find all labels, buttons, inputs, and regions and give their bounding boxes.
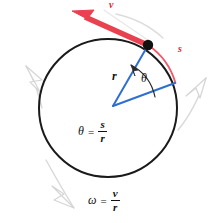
angular-velocity-equation-operator: = xyxy=(100,195,106,207)
angular-velocity-equation-denominator: r xyxy=(113,201,117,213)
velocity-vector-shaft xyxy=(85,17,152,47)
angle-equation-lhs: θ xyxy=(78,124,84,139)
velocity-label: v xyxy=(109,0,113,10)
arc-length-label: s xyxy=(178,44,182,54)
angle-equation-operator: = xyxy=(88,126,94,138)
velocity-vector-head xyxy=(72,10,97,24)
radius-label: r xyxy=(112,70,117,82)
angular-velocity-equation-lhs: ω xyxy=(88,193,96,208)
rotation-arrow-right-head xyxy=(186,78,206,98)
point-on-circle-dot xyxy=(143,40,153,50)
circular-motion-diagram: v s r θ θ = s r ω = v r xyxy=(0,0,221,223)
angle-equation-denominator: r xyxy=(100,132,104,144)
velocity-vector xyxy=(72,10,152,47)
angular-velocity-equation: ω = v r xyxy=(88,188,120,213)
angular-velocity-equation-numerator: v xyxy=(113,188,118,200)
radius-line-to-arc-end xyxy=(113,83,175,106)
main-circle xyxy=(39,39,177,177)
angle-equation-numerator: s xyxy=(100,119,104,131)
angle-equation-fraction: s r xyxy=(98,119,107,144)
angular-velocity-equation-fraction: v r xyxy=(111,188,120,213)
rotation-arrow-upper-left-head xyxy=(26,66,42,92)
angle-label: θ xyxy=(141,72,147,84)
angle-equation: θ = s r xyxy=(78,119,107,144)
